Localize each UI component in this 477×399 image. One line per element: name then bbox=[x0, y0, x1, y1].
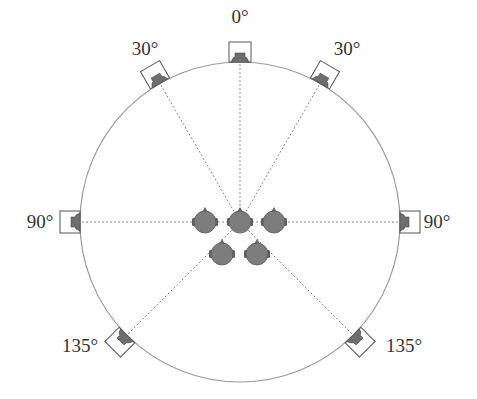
speaker-rear-left bbox=[105, 327, 135, 357]
listener-head-icon bbox=[261, 207, 287, 233]
angle-label-front-right: 30° bbox=[334, 38, 361, 59]
direction-line-rear-right bbox=[240, 222, 353, 335]
direction-line-front-right bbox=[240, 83, 320, 222]
speaker-front-left bbox=[140, 61, 169, 89]
angle-label-front-left: 30° bbox=[132, 38, 159, 59]
angle-label-side-right: 90° bbox=[424, 211, 451, 232]
listener-head-icon bbox=[244, 239, 270, 265]
angle-label-side-left: 90° bbox=[27, 211, 54, 232]
listener-head-icon bbox=[227, 207, 253, 233]
speaker-front-right bbox=[310, 61, 339, 89]
speaker-front-center bbox=[229, 42, 251, 62]
speaker-side-left bbox=[60, 211, 80, 233]
angle-label-rear-right: 135° bbox=[386, 335, 422, 356]
speaker-layout-diagram: 0°30°30°90°90°135°135° bbox=[0, 0, 477, 399]
speaker-side-right bbox=[400, 211, 420, 233]
angle-label-rear-left: 135° bbox=[62, 335, 98, 356]
listener-head-icon bbox=[209, 239, 235, 265]
speaker-direction-lines bbox=[80, 62, 400, 335]
direction-line-rear-left bbox=[127, 222, 240, 335]
speaker-rear-right bbox=[345, 327, 375, 357]
listener-head-icon bbox=[192, 207, 218, 233]
angle-label-front-center: 0° bbox=[231, 6, 248, 27]
direction-line-front-left bbox=[160, 83, 240, 222]
